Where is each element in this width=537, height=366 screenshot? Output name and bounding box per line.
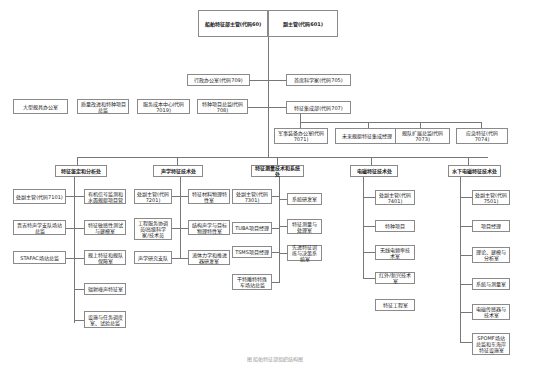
dept3-r2 bbox=[279, 226, 287, 227]
dept5-sensors-box: 电磁传感器与技术室 bbox=[472, 304, 510, 320]
dept5-systems-box: 系统与测量室 bbox=[472, 278, 510, 290]
dept2-materials-box: 特征材料物理特性室 bbox=[188, 189, 230, 204]
dept1-r5 bbox=[74, 320, 84, 321]
dept4-engineering-box: 特征工程室 bbox=[375, 299, 415, 311]
dept1-r4 bbox=[74, 289, 84, 290]
admin-office-box: 行政办公室(代码709) bbox=[187, 74, 250, 86]
staff-right-connector bbox=[268, 80, 286, 81]
dept2-l1 bbox=[172, 196, 180, 197]
quality-improvement-box: 质量改进和特种项目总监 bbox=[77, 99, 129, 114]
dept1-acoustic-site-box: 晋吉特声学支队场站总监 bbox=[13, 220, 66, 235]
dept2-hydrodynamics-box: 流体力学和推进器研发室 bbox=[188, 250, 230, 265]
dept2-l2 bbox=[172, 228, 180, 229]
dept3-tsms-box: TSMS项目经理 bbox=[232, 246, 272, 258]
dept5-r2 bbox=[460, 226, 472, 227]
dept5-theory-box: 理论、建模与分析室 bbox=[472, 247, 510, 263]
dept3-spine bbox=[279, 173, 280, 283]
dept4-title: 电磁特征技术处 bbox=[350, 165, 398, 177]
deputy-director-box: 副主管(代码601) bbox=[268, 10, 338, 37]
dept1-r2 bbox=[74, 228, 84, 229]
dept1-title: 特征鉴定和分析处 bbox=[55, 165, 107, 177]
dept4-r1 bbox=[363, 197, 375, 198]
department-bar bbox=[77, 157, 488, 158]
dept-drop-4 bbox=[371, 157, 372, 165]
dept3-tuba-box: TUBA项目经理 bbox=[232, 222, 272, 234]
dept4-rf-tech-box: 无线电频率技术室 bbox=[375, 245, 415, 260]
dept5-r1 bbox=[460, 197, 472, 198]
dept3-l2 bbox=[272, 228, 279, 229]
dept3-r3 bbox=[279, 253, 287, 254]
dept-drop-5 bbox=[468, 157, 469, 165]
dept5-deputy-box: 处副主管(代码7501) bbox=[472, 190, 510, 205]
dept1-stafac-box: STAFAC场站总监 bbox=[13, 251, 66, 264]
dept3-l3 bbox=[272, 252, 279, 253]
dept4-r4 bbox=[363, 278, 375, 279]
dept5-spine bbox=[460, 173, 461, 343]
dept1-organic-signal-box: 有机信号监测和水面舰艇项目管 bbox=[84, 189, 126, 204]
main-trunk-line bbox=[268, 37, 269, 157]
dept5-r6 bbox=[460, 342, 472, 343]
dept-drop-2 bbox=[177, 157, 178, 165]
dept1-l2 bbox=[66, 228, 74, 229]
dept2-deputy-box: 处副主管(代码7201) bbox=[134, 189, 172, 204]
dept4-deputy-box: 处副主管(代码7401) bbox=[375, 190, 415, 205]
row2-connector-right bbox=[268, 107, 286, 108]
dept-drop-3 bbox=[277, 157, 278, 165]
dept3-system-rd-box: 系统研发室 bbox=[287, 193, 322, 205]
cost-center-box: 服务成本中心(代码7019) bbox=[137, 99, 190, 114]
chief-scientist-box: 首席科学家(代码705) bbox=[286, 74, 351, 86]
dept2-acoustic-research-box: 声学研究支队 bbox=[134, 251, 172, 264]
dept4-r3 bbox=[363, 252, 375, 253]
director-box: 船舶特征部主管(代码60) bbox=[198, 10, 268, 37]
dept5-spomf-box: SPOMF场站总监和东海岸特征设施室 bbox=[472, 333, 510, 355]
staff-left-connector bbox=[250, 80, 268, 81]
dept5-title: 水下电磁特征技术处 bbox=[448, 165, 501, 177]
dept5-r3 bbox=[460, 255, 472, 256]
emergency-signature-box: 应急特征(代码7074) bbox=[456, 128, 508, 144]
figure-caption: 图 船舶特征部组织结构图 bbox=[200, 355, 350, 362]
future-ship-integration-box: 未来舰艇特征集成经理 bbox=[335, 128, 399, 144]
dept1-radiated-noise-box: 辐射噪声特征室 bbox=[84, 283, 126, 295]
dept5-r5 bbox=[460, 312, 472, 313]
dept3-l4 bbox=[272, 282, 279, 283]
dept3-deputy-box: 处副主管(代码7301) bbox=[232, 189, 272, 204]
dept1-deputy-box: 处副主管(代码7101) bbox=[13, 189, 66, 204]
dept3-l1 bbox=[272, 196, 279, 197]
dept2-r1 bbox=[180, 196, 188, 197]
dept2-r2 bbox=[180, 228, 188, 229]
dept4-infrared-box: 红外/新兴技术室 bbox=[375, 272, 415, 284]
dept2-title: 声学特征技术处 bbox=[153, 165, 203, 177]
integration-dept-box: 特征集成部(代码707) bbox=[286, 101, 351, 114]
special-projects-box: 特种项目总监(代码708) bbox=[197, 99, 248, 114]
fleet-expansion-box: 舰队扩展总监(代码7073) bbox=[395, 128, 450, 144]
dept5-project-manager-box: 项目经理 bbox=[472, 220, 510, 232]
dept1-facilities-box: 设施与任务调度室、试验总监 bbox=[84, 311, 126, 328]
dept2-spine bbox=[180, 173, 181, 258]
dept4-special-projects-box: 特种项目 bbox=[375, 220, 415, 232]
large-ship-office-box: 大型舰具办公室 bbox=[13, 99, 68, 114]
dept2-l3 bbox=[172, 258, 180, 259]
dept5-r4 bbox=[460, 284, 472, 285]
dept3-r1 bbox=[279, 199, 287, 200]
row2-connector-left bbox=[248, 107, 268, 108]
military-equipment-office-box: 军事装备办公室(代码7071) bbox=[274, 128, 328, 144]
dept3-site-box: 干特雕特特殊车场站总监 bbox=[232, 274, 272, 290]
dept1-sensitivity-box: 特征敏感性测试与建模室 bbox=[84, 220, 126, 235]
dept3-title: 特征测量技术和系统处 bbox=[251, 165, 304, 177]
dept3-training-box: 先进特征训练与决策系统室 bbox=[287, 245, 322, 261]
dept1-r1 bbox=[74, 196, 84, 197]
dept2-r3 bbox=[180, 258, 188, 259]
dept2-engineering-box: 工程服务协调员/高级科学家/技术员 bbox=[134, 218, 172, 240]
dept1-l1 bbox=[66, 196, 74, 197]
dept1-r3 bbox=[74, 258, 84, 259]
dept1-l3 bbox=[66, 258, 74, 259]
dept4-r2 bbox=[363, 226, 375, 227]
dept-drop-1 bbox=[77, 157, 78, 165]
integration-trunk bbox=[300, 114, 301, 122]
integration-bar bbox=[300, 122, 481, 123]
dept2-structural-acoustics-box: 结构声学与目标物理特性室 bbox=[188, 220, 230, 235]
dept1-shipboard-box: 舰上特征和舰队保障室 bbox=[84, 250, 126, 265]
dept3-measurement-box: 特征测量与处理室 bbox=[287, 219, 322, 234]
